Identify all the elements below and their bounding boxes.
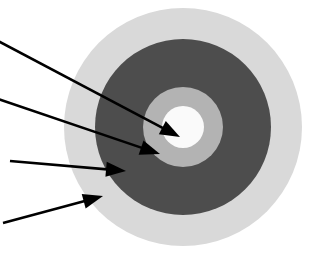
concentric-zone-diagram	[0, 0, 312, 259]
callout-arrow-outer	[3, 194, 103, 223]
callout-arrow-second	[10, 161, 126, 177]
diagram-canvas: Concentric zone diagram	[0, 0, 312, 259]
callout-outer-shaft	[3, 200, 88, 223]
